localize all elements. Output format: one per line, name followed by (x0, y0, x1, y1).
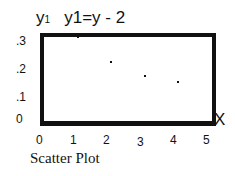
data-point (177, 81, 179, 83)
chart-title: y1 y1=y - 2 (36, 8, 125, 28)
x-tick: 5 (203, 133, 210, 147)
x-tick: 0 (36, 133, 43, 147)
plot-area (40, 33, 216, 126)
y-tick: 0 (16, 112, 23, 126)
y-tick: .1 (16, 90, 26, 104)
x-tick: 2 (103, 133, 110, 147)
y-tick: .2 (16, 62, 26, 76)
x-tick: 1 (70, 133, 77, 147)
data-point (144, 75, 146, 77)
y-axis-label: y1 (36, 8, 50, 27)
x-axis-label: X (214, 110, 225, 130)
x-tick: 3 (137, 135, 144, 149)
data-point (77, 36, 79, 38)
y-tick: .3 (16, 34, 26, 48)
caption: Scatter Plot (30, 150, 100, 167)
x-tick: 4 (170, 133, 177, 147)
equation: y1=y - 2 (64, 8, 125, 27)
data-point (110, 61, 112, 63)
